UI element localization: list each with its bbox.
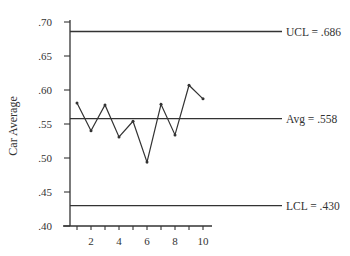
x-tick-label: 6 (144, 235, 150, 247)
x-tick-label: 10 (198, 235, 210, 247)
ucl-label: UCL = .686 (286, 26, 341, 38)
y-tick-label: .40 (38, 220, 52, 232)
axes: .40.45.50.55.60.65.70246810 (38, 16, 212, 247)
data-point (118, 135, 121, 138)
data-point (146, 161, 149, 164)
y-axis-label: Car Average (6, 96, 20, 155)
series-line (77, 85, 203, 162)
x-tick-label: 8 (172, 235, 178, 247)
data-point (188, 84, 191, 87)
data-point (174, 133, 177, 136)
y-tick-label: .70 (38, 16, 52, 28)
data-point (202, 97, 205, 100)
avg-label: Avg = .558 (286, 113, 338, 126)
y-tick-label: .45 (38, 186, 52, 198)
data-point (90, 129, 93, 132)
data-series (76, 84, 205, 164)
y-tick-label: .60 (38, 84, 52, 96)
y-tick-label: .50 (38, 152, 52, 164)
x-tick-label: 2 (88, 235, 94, 247)
data-point (104, 103, 107, 106)
control-chart: .40.45.50.55.60.65.70246810 UCL = .686Av… (0, 0, 350, 256)
x-tick-label: 4 (116, 235, 122, 247)
y-tick-label: .55 (38, 118, 52, 130)
data-point (160, 103, 163, 106)
y-tick-label: .65 (38, 50, 52, 62)
data-point (76, 101, 79, 104)
data-point (132, 120, 135, 123)
lcl-label: LCL = .430 (286, 200, 340, 212)
